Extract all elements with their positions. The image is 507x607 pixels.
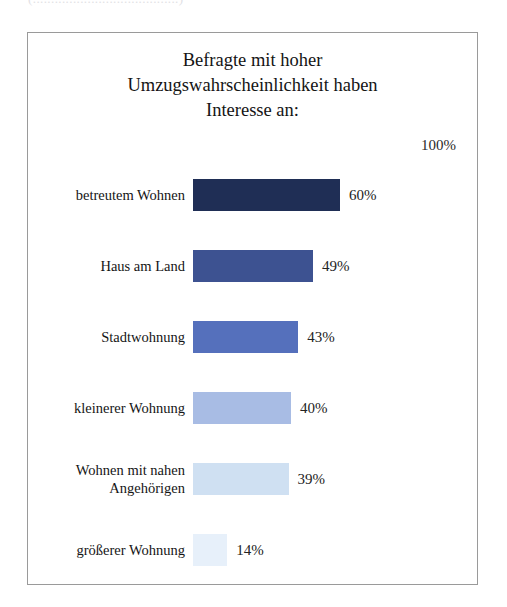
bar-betreutem-wohnen [193, 179, 340, 211]
category-label: kleinerer Wohnung [28, 399, 193, 417]
clipped-top-text: (.......................................… [28, 0, 358, 7]
chart-frame: Befragte mit hoher Umzugswahrscheinlichk… [27, 32, 478, 585]
bar-value-label: 60% [340, 187, 377, 204]
bar-track: 49% [193, 232, 477, 300]
category-label: Haus am Land [28, 257, 193, 275]
bar-track: 43% [193, 303, 477, 371]
chart-title-line-2: Umzugswahrscheinlichkeit haben [28, 73, 477, 98]
bar-value-label: 49% [313, 258, 350, 275]
category-label: betreutem Wohnen [28, 186, 193, 204]
bar-row: Wohnen mit nahen Angehörigen 39% [28, 445, 477, 513]
bar-track: 40% [193, 374, 477, 442]
bar-row: Haus am Land 49% [28, 232, 477, 300]
bar-value-label: 43% [298, 329, 335, 346]
category-label-line: betreutem Wohnen [28, 186, 185, 204]
bar-haus-am-land [193, 250, 313, 282]
bar-row: größerer Wohnung 14% [28, 516, 477, 584]
category-label-line: Haus am Land [28, 257, 185, 275]
bar-kleinerer-wohnung [193, 392, 291, 424]
category-label: größerer Wohnung [28, 541, 193, 559]
bar-value-label: 14% [227, 542, 264, 559]
bar-row: betreutem Wohnen 60% [28, 161, 477, 229]
bar-value-label: 40% [291, 400, 328, 417]
chart-title-line-1: Befragte mit hoher [28, 48, 477, 73]
bar-groesserer-wohnung [193, 534, 227, 566]
category-label: Stadtwohnung [28, 328, 193, 346]
category-label: Wohnen mit nahen Angehörigen [28, 461, 193, 497]
category-label-line: kleinerer Wohnung [28, 399, 185, 417]
axis-max-label: 100% [421, 137, 456, 154]
bar-wohnen-mit-nahen-angehoerigen [193, 463, 289, 495]
bar-plot-area: betreutem Wohnen 60% Haus am Land 49% St… [28, 161, 477, 571]
bar-track: 39% [193, 445, 477, 513]
bar-track: 14% [193, 516, 477, 584]
category-label-line: Angehörigen [28, 479, 185, 497]
category-label-line: größerer Wohnung [28, 541, 185, 559]
bar-row: kleinerer Wohnung 40% [28, 374, 477, 442]
bar-row: Stadtwohnung 43% [28, 303, 477, 371]
bar-value-label: 39% [289, 471, 326, 488]
bar-stadtwohnung [193, 321, 298, 353]
chart-title: Befragte mit hoher Umzugswahrscheinlichk… [28, 48, 477, 123]
category-label-line: Stadtwohnung [28, 328, 185, 346]
chart-title-line-3: Interesse an: [28, 98, 477, 123]
bar-track: 60% [193, 161, 477, 229]
category-label-line: Wohnen mit nahen [28, 461, 185, 479]
